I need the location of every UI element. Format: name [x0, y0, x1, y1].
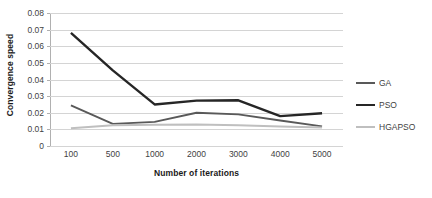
grid-line [50, 146, 343, 147]
y-axis-tick-mark [47, 113, 50, 114]
series-lines [50, 13, 343, 146]
y-axis-tick-mark [47, 13, 50, 14]
y-axis-tick-label: 0.04 [27, 75, 44, 84]
legend-label-pso: PSO [379, 101, 397, 110]
y-axis-tick-mark [47, 129, 50, 130]
x-axis-tick-label: 2000 [187, 150, 206, 159]
y-axis-tick-label: 0.06 [27, 42, 44, 51]
y-axis-tick-label: 0.08 [27, 9, 44, 18]
y-axis-tick-label: 0.05 [27, 59, 44, 68]
legend-swatch-ga [356, 82, 375, 84]
plot-area [50, 13, 343, 146]
y-axis-tick-labels: 0.080.070.060.050.040.030.020.010 [16, 13, 47, 146]
legend-entry-pso[interactable]: PSO [356, 94, 430, 116]
legend-entry-ga[interactable]: GA [356, 72, 430, 94]
y-axis-title-label: Convergence speed [5, 34, 15, 116]
x-axis-tick-label: 500 [106, 150, 120, 159]
series-line-pso [71, 33, 322, 116]
y-axis-tick-label: 0.07 [27, 25, 44, 34]
y-axis-tick-mark [47, 30, 50, 31]
x-axis-title: Number of iterations [50, 168, 343, 178]
legend-swatch-pso [356, 104, 375, 106]
chart-legend: GAPSOHGAPSO [356, 72, 430, 138]
legend-label-ga: GA [379, 79, 391, 88]
y-axis-tick-label: 0.03 [27, 92, 44, 101]
y-axis-tick-mark [47, 80, 50, 81]
y-axis-tick-label: 0.01 [27, 125, 44, 134]
legend-entry-hgapso[interactable]: HGAPSO [356, 116, 430, 138]
x-axis-tick-label: 100 [64, 150, 78, 159]
x-axis-tick-label: 4000 [271, 150, 290, 159]
y-axis-tick-mark [47, 96, 50, 97]
y-axis-tick-label: 0.02 [27, 109, 44, 118]
x-axis-tick-labels: 10050010002000300040005000 [50, 150, 343, 164]
x-axis-tick-label: 1000 [145, 150, 164, 159]
y-axis-tick-mark [47, 46, 50, 47]
x-axis-tick-label: 5000 [313, 150, 332, 159]
y-axis-tick-mark [47, 146, 50, 147]
x-axis-tick-label: 3000 [229, 150, 248, 159]
y-axis-tick-label: 0 [39, 142, 44, 151]
y-axis-tick-mark [47, 63, 50, 64]
convergence-speed-line-chart: Convergence speed 0.080.070.060.050.040.… [0, 0, 432, 198]
legend-swatch-hgapso [356, 126, 375, 128]
series-line-hgapso [71, 124, 322, 128]
legend-label-hgapso: HGAPSO [379, 123, 415, 132]
